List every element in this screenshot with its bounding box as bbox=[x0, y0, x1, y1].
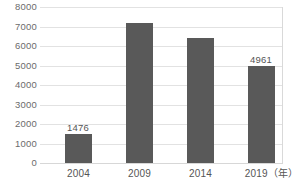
x-tick-label-2004: 2004 bbox=[55, 167, 102, 180]
bar-value-2004: 1476 bbox=[55, 122, 101, 133]
y-tick-label: 2000 bbox=[3, 119, 37, 129]
bar-2009[interactable] bbox=[126, 23, 153, 163]
y-tick-label: 0 bbox=[3, 158, 37, 168]
bar-2004[interactable] bbox=[65, 134, 92, 163]
y-tick-label: 7000 bbox=[3, 22, 37, 32]
y-tick-label: 3000 bbox=[3, 100, 37, 110]
x-tick-label-2009: 2009 bbox=[116, 167, 163, 180]
bar-2019[interactable] bbox=[248, 66, 275, 163]
bar-chart: 8000 7000 6000 5000 4000 3000 2000 1000 … bbox=[0, 0, 292, 189]
y-tick-label: 1000 bbox=[3, 139, 37, 149]
y-tick-label: 6000 bbox=[3, 41, 37, 51]
y-tick-label: 5000 bbox=[3, 61, 37, 71]
bar-2014[interactable] bbox=[187, 38, 214, 163]
y-tick-label: 8000 bbox=[3, 2, 37, 12]
bars-layer: 1476 4961 bbox=[40, 7, 283, 163]
x-axis-tick-labels: 2004 2009 2014 2019（年） bbox=[40, 167, 283, 187]
x-tick-label-2019: 2019（年） bbox=[222, 167, 292, 180]
y-axis-tick-labels: 8000 7000 6000 5000 4000 3000 2000 1000 … bbox=[0, 7, 37, 163]
gridline-baseline-0 bbox=[40, 163, 283, 164]
y-tick-label: 4000 bbox=[3, 80, 37, 90]
bar-value-2019: 4961 bbox=[238, 54, 284, 65]
x-tick-label-2014: 2014 bbox=[177, 167, 224, 180]
